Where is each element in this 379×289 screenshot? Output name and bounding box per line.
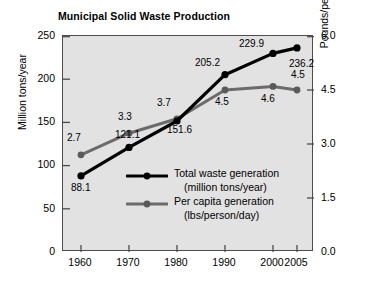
data-label-percapita-1960: 2.7	[67, 132, 81, 143]
data-label-percapita-1970: 3.3	[118, 111, 132, 122]
data-label-percapita-1990: 4.5	[215, 96, 229, 107]
legend-label-per-capita-line1: Per capita generation	[174, 195, 274, 207]
x-tick-1990: 1990	[199, 256, 249, 268]
plot-area: 2.7 3.3 3.7 4.5 4.6 4.5 88.1 121.1 151.6…	[62, 35, 313, 251]
data-label-total-2005: 236.2	[289, 58, 314, 69]
data-label-percapita-1980: 3.7	[157, 97, 171, 108]
y-left-tick-250: 250	[10, 29, 55, 41]
data-label-total-1980: 151.6	[167, 124, 192, 135]
y-right-tick-1-5: 1.5	[321, 191, 336, 203]
y-left-tick-50: 50	[10, 202, 55, 214]
data-label-total-2000: 229.9	[239, 38, 264, 49]
legend-label-total-waste-line2: (million tons/year)	[184, 181, 267, 193]
data-label-total-1970: 121.1	[115, 129, 140, 140]
x-tick-marks	[81, 245, 297, 252]
data-label-percapita-2005: 4.5	[291, 69, 305, 80]
y-left-tick-150: 150	[10, 115, 55, 127]
chart-title: Municipal Solid Waste Production	[58, 10, 230, 22]
legend-label-per-capita-line2: (lbs/person/day)	[184, 209, 259, 221]
x-tick-1970: 1970	[103, 256, 153, 268]
legend-swatch-total-waste	[126, 170, 168, 182]
y-right-tick-0: 0.0	[321, 245, 336, 257]
x-tick-2005: 2005	[271, 256, 321, 268]
y-right-tick-4-5: 4.5	[321, 83, 336, 95]
x-tick-1960: 1960	[55, 256, 105, 268]
data-label-percapita-2000: 4.6	[261, 93, 275, 104]
data-label-total-1990: 205.2	[195, 57, 220, 68]
x-tick-1980: 1980	[151, 256, 201, 268]
y-left-tick-marks	[63, 37, 70, 209]
data-label-total-1960: 88.1	[71, 182, 90, 193]
y-right-tick-6: 6.0	[321, 29, 336, 41]
chart-figure: Municipal Solid Waste Production Million…	[0, 0, 379, 289]
y-right-tick-3: 3.0	[321, 137, 336, 149]
y-left-tick-100: 100	[10, 158, 55, 170]
legend-label-total-waste-line1: Total waste generation	[174, 167, 279, 179]
y-left-tick-200: 200	[10, 72, 55, 84]
legend-swatch-per-capita	[126, 198, 168, 210]
y-axis-left-title: Million tons/year	[16, 22, 28, 162]
y-left-tick-0: 0	[10, 245, 55, 257]
